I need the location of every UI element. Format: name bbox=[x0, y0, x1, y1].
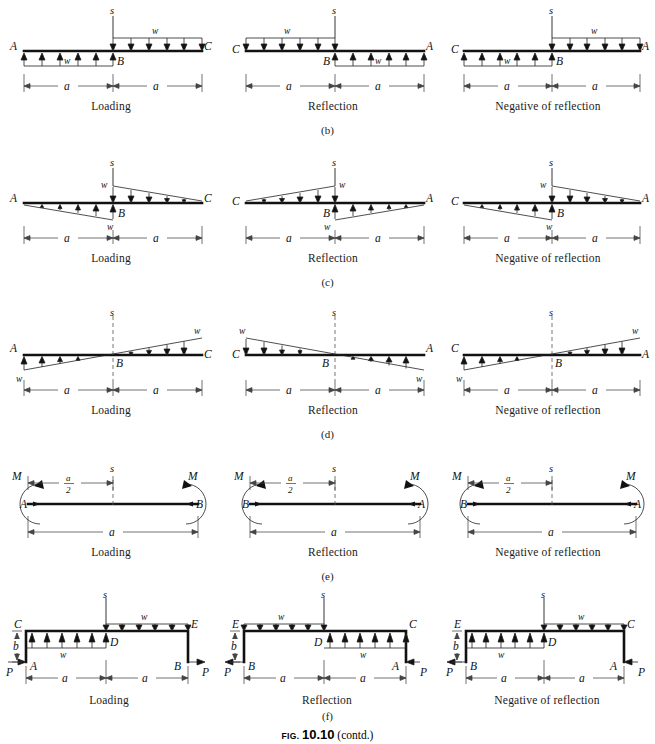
node-label-A: A bbox=[609, 660, 618, 672]
node-label-A: A bbox=[641, 348, 650, 360]
load-label-w-right: w bbox=[540, 180, 547, 190]
row-label-f: (f) bbox=[0, 710, 655, 722]
figure-caption-number: 10.10 bbox=[302, 727, 335, 742]
panel-b-loading: s w w A B bbox=[6, 8, 216, 104]
axis-label-s: s bbox=[110, 307, 114, 318]
moment-label-M-right: M bbox=[187, 470, 199, 482]
node-label-A: A bbox=[29, 660, 38, 672]
dim-label-a-right: a bbox=[153, 232, 159, 244]
dim-label-a-right: a bbox=[360, 672, 366, 684]
load-label-w-right: w bbox=[152, 26, 159, 36]
panel-caption: Reflection bbox=[228, 252, 438, 264]
node-label-B: B bbox=[242, 498, 249, 510]
dim-label-a: a bbox=[109, 526, 115, 538]
dim-label-a-right: a bbox=[592, 384, 598, 396]
panel-caption: Negative of reflection bbox=[448, 252, 648, 264]
row-c: s w w A B C bbox=[0, 160, 655, 290]
node-label-A: A bbox=[425, 40, 434, 52]
dim-label-a-right: a bbox=[375, 384, 381, 396]
force-label-P-left: P bbox=[445, 666, 453, 678]
force-label-P-left: P bbox=[223, 666, 231, 678]
dim-label-a-right: a bbox=[375, 80, 381, 92]
panel-c-reflection: s w w C B A bbox=[228, 160, 438, 256]
node-label-D: D bbox=[109, 636, 119, 648]
load-label-w-top: w bbox=[578, 612, 585, 622]
panel-caption: Loading bbox=[6, 546, 216, 558]
panel-c-loading: s w w A B C bbox=[6, 160, 216, 256]
panel-f-loading: s w w bbox=[2, 598, 216, 706]
panel-caption: Reflection bbox=[228, 100, 438, 112]
load-label-w-left: w bbox=[64, 56, 71, 66]
node-label-B: B bbox=[460, 498, 467, 510]
panel-caption: Negative of reflection bbox=[448, 404, 648, 416]
dim-label-a-left: a bbox=[504, 80, 510, 92]
dim-label-a-left: a bbox=[62, 672, 68, 684]
dim-label-a: a bbox=[548, 526, 554, 538]
node-label-C: C bbox=[204, 192, 212, 204]
dim-label-a-right: a bbox=[592, 80, 598, 92]
dim-label-b: b bbox=[13, 640, 19, 652]
dim-label-a-left: a bbox=[504, 384, 510, 396]
load-label-w-top: w bbox=[278, 612, 285, 622]
dim-label-a-left: a bbox=[286, 80, 292, 92]
node-label-D: D bbox=[547, 636, 557, 648]
node-label-A: A bbox=[9, 192, 18, 204]
axis-label-s: s bbox=[110, 463, 114, 474]
panel-c-negative: s w w C B A bbox=[448, 160, 648, 256]
node-label-B: B bbox=[323, 55, 330, 67]
axis-label-s: s bbox=[549, 5, 553, 16]
node-label-B: B bbox=[323, 207, 330, 219]
panel-e-reflection: s M M B A a 2 bbox=[228, 458, 438, 550]
node-label-A: A bbox=[391, 660, 400, 672]
axis-label-s: s bbox=[110, 157, 114, 168]
load-label-w-bottom: w bbox=[498, 650, 505, 660]
axis-label-s: s bbox=[541, 589, 545, 600]
axis-label-s: s bbox=[332, 5, 336, 16]
force-label-P-right: P bbox=[637, 666, 645, 678]
node-label-C: C bbox=[204, 348, 212, 360]
moment-label-M-left: M bbox=[451, 470, 463, 482]
node-label-B: B bbox=[118, 207, 125, 219]
dim-label-half-num: a bbox=[66, 473, 71, 483]
dim-label-a-right: a bbox=[375, 232, 381, 244]
axis-label-s: s bbox=[321, 589, 325, 600]
row-label-d: (d) bbox=[0, 428, 655, 440]
dim-label-a-left: a bbox=[286, 384, 292, 396]
node-label-A: A bbox=[633, 498, 642, 510]
panel-caption: Negative of reflection bbox=[448, 546, 648, 558]
moment-label-M-right: M bbox=[625, 470, 637, 482]
load-label-w-right: w bbox=[194, 326, 201, 336]
dim-label-a-left: a bbox=[64, 232, 70, 244]
dim-label-half-num: a bbox=[288, 473, 293, 483]
panel-caption: Loading bbox=[6, 100, 216, 112]
panel-caption: Reflection bbox=[220, 694, 434, 706]
panel-b-negative: s w w C B A bbox=[448, 8, 648, 104]
dim-label-b: b bbox=[231, 640, 237, 652]
node-label-A: A bbox=[9, 342, 18, 354]
node-label-C: C bbox=[451, 43, 459, 55]
load-label-w-left: w bbox=[284, 26, 291, 36]
dim-label-a-right: a bbox=[153, 384, 159, 396]
dim-label-a-right: a bbox=[142, 672, 148, 684]
row-label-b: (b) bbox=[0, 124, 655, 136]
figure-caption: FIG. 10.10 (contd.) bbox=[0, 727, 655, 742]
node-label-C: C bbox=[451, 195, 459, 207]
node-label-B: B bbox=[556, 55, 563, 67]
force-label-P-right: P bbox=[419, 666, 427, 678]
axis-label-s: s bbox=[332, 463, 336, 474]
panel-f-reflection: s w w E D C bbox=[220, 598, 434, 706]
panel-caption: Negative of reflection bbox=[448, 100, 648, 112]
node-label-C: C bbox=[232, 43, 240, 55]
panel-b-reflection: s w w C B A bbox=[228, 8, 438, 104]
panel-e-negative: s M M B A a 2 bbox=[448, 458, 648, 550]
force-label-P-right: P bbox=[201, 666, 209, 678]
panel-caption: Reflection bbox=[228, 404, 438, 416]
row-d: s w w A B C bbox=[0, 312, 655, 442]
row-label-c: (c) bbox=[0, 276, 655, 288]
force-label-P-left: P bbox=[5, 666, 13, 678]
dim-label-b: b bbox=[453, 640, 459, 652]
panel-caption: Loading bbox=[2, 694, 216, 706]
node-label-A: A bbox=[641, 192, 650, 204]
load-label-w-right: w bbox=[324, 222, 331, 232]
panel-e-loading: s M M A B a 2 bbox=[6, 458, 216, 550]
